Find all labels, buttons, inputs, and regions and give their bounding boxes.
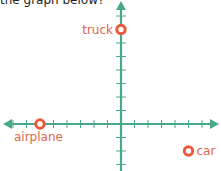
x-axis-right-arrow [210, 119, 219, 129]
coordinate-graph: truckairplanecar [0, 0, 221, 171]
point-car [184, 147, 192, 155]
point-truck [117, 25, 125, 33]
label-truck: truck [82, 23, 113, 37]
points: truckairplanecar [14, 23, 215, 159]
label-airplane: airplane [14, 130, 63, 144]
y-axis-up-arrow [116, 1, 126, 10]
label-car: car [197, 144, 216, 158]
point-airplane [36, 120, 44, 128]
x-axis-left-arrow [3, 119, 12, 129]
